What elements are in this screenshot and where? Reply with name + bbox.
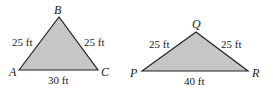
triangle-abc: B A C 25 ft 25 ft 30 ft <box>8 3 110 86</box>
side-ac-label: 30 ft <box>48 74 68 86</box>
side-pr-label: 40 ft <box>184 75 204 87</box>
vertex-q-label: Q <box>192 17 201 31</box>
side-bc-label: 25 ft <box>84 36 104 48</box>
vertex-a-label: A <box>8 65 17 79</box>
vertex-b-label: B <box>54 3 62 17</box>
side-ab-label: 25 ft <box>12 36 32 48</box>
triangle-pqr: Q P R 25 ft 25 ft 40 ft <box>129 17 260 87</box>
side-qr-label: 25 ft <box>221 38 241 50</box>
vertex-c-label: C <box>101 65 110 79</box>
vertex-r-label: R <box>251 66 260 80</box>
vertex-p-label: P <box>129 66 138 80</box>
triangles-diagram: B A C 25 ft 25 ft 30 ft Q P R 25 ft 25 f… <box>0 0 273 90</box>
side-pq-label: 25 ft <box>149 38 169 50</box>
